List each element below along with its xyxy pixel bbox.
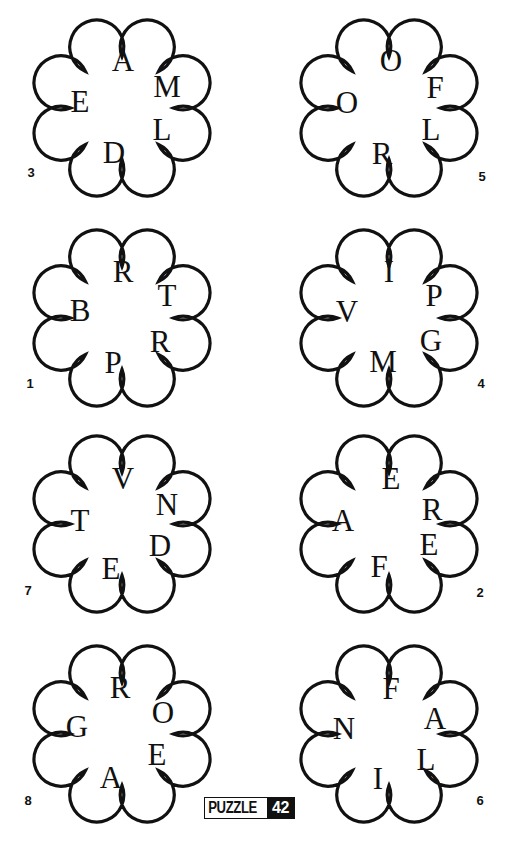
puzzle-badge-label: PUZZLE xyxy=(205,798,264,818)
cloud-letter: F xyxy=(382,673,399,704)
puzzle-badge: PUZZLE 42 xyxy=(204,797,295,819)
cloud-letter: I xyxy=(373,763,383,794)
puzzle-badge-number: 42 xyxy=(267,798,294,818)
cloud-letter: L xyxy=(417,744,436,775)
cloud-letter: A xyxy=(424,703,446,734)
puzzle-number: 6 xyxy=(476,793,483,808)
cloud-letter: N xyxy=(333,713,355,744)
